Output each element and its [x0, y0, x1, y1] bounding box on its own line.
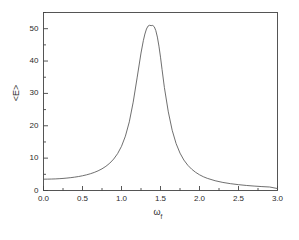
x-axis-label: ωf	[140, 207, 176, 219]
x-axis-label-base: ω	[154, 207, 161, 217]
x-axis-label-subscript: f	[161, 213, 163, 220]
y-tick-label: 20	[19, 121, 39, 130]
x-tick-label: 0.5	[70, 194, 96, 203]
y-tick-label: 10	[19, 153, 39, 162]
y-tick-label: 30	[19, 88, 39, 97]
y-tick-label: 40	[19, 56, 39, 65]
y-tick-label: 50	[19, 24, 39, 33]
x-tick-label: 1.5	[148, 194, 174, 203]
x-tick-label: 3.0	[265, 194, 291, 203]
x-tick-label: 1.0	[109, 194, 135, 203]
y-tick-label: 0	[19, 186, 39, 195]
x-tick-label: 2.5	[226, 194, 252, 203]
x-tick-label: 2.0	[187, 194, 213, 203]
x-tick-label: 0.0	[31, 194, 57, 203]
